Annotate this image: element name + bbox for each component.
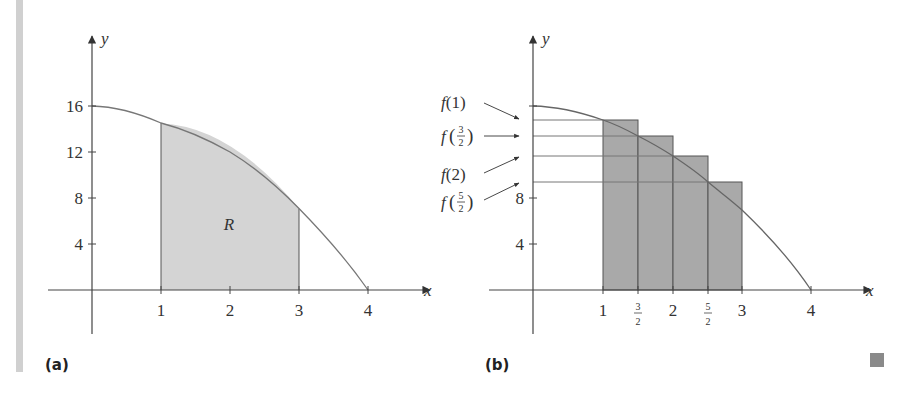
y-tick-4: 4 <box>75 235 84 254</box>
rect-3 <box>673 156 708 290</box>
label-f1: f(1) <box>441 93 519 119</box>
label-f2: f(2) <box>441 157 519 184</box>
svg-text:2: 2 <box>459 137 464 148</box>
riemann-rectangles <box>603 120 742 290</box>
svg-text:2: 2 <box>636 316 641 327</box>
svg-text:5: 5 <box>706 301 711 312</box>
side-bar <box>16 0 23 372</box>
svg-text:3: 3 <box>459 124 464 135</box>
panel-b: 1 3 2 2 5 2 3 4 4 8 x y f(1) f <box>441 29 874 374</box>
svg-text:f(1): f(1) <box>441 93 466 112</box>
panel-label-a: (a) <box>45 356 69 374</box>
figure: 1 2 3 4 4 8 12 16 x y R (a) <box>0 0 913 410</box>
x-tick-2-b: 2 <box>669 301 678 320</box>
svg-text:f: f <box>441 127 448 146</box>
svg-text:3: 3 <box>636 301 641 312</box>
svg-text:): ) <box>467 125 473 147</box>
x-tick-1: 1 <box>157 301 166 320</box>
x-tick-3: 3 <box>295 301 304 320</box>
x-tick-3-b: 3 <box>738 301 747 320</box>
y-tick-12: 12 <box>66 143 83 162</box>
y-tick-8: 8 <box>75 189 84 208</box>
svg-text:(: ( <box>449 125 455 147</box>
svg-text:f(2): f(2) <box>441 165 466 184</box>
y-axis-label-b: y <box>540 29 550 48</box>
y-tick-8-b: 8 <box>516 189 525 208</box>
y-tick-4-b: 4 <box>516 235 525 254</box>
svg-text:2: 2 <box>459 203 464 214</box>
x-tick-1-b: 1 <box>599 301 608 320</box>
panel-label-b: (b) <box>485 356 509 374</box>
rect-2 <box>638 136 673 290</box>
panel-a: 1 2 3 4 4 8 12 16 x y R (a) <box>45 29 432 374</box>
rect-4 <box>708 182 742 290</box>
label-f5-2: f ( 5 2 ) <box>441 183 519 214</box>
svg-text:2: 2 <box>706 316 711 327</box>
x-axis-label: x <box>423 281 432 300</box>
label-f3-2: f ( 3 2 ) <box>441 124 519 148</box>
y-axis-label: y <box>99 29 109 48</box>
y-tick-16: 16 <box>66 97 83 116</box>
x-tick-2: 2 <box>226 301 235 320</box>
end-marker-square <box>870 353 884 367</box>
x-tick-4-b: 4 <box>807 301 816 320</box>
svg-text:f: f <box>441 193 448 212</box>
x-tick-3-2-b: 3 2 <box>634 301 642 327</box>
svg-text:(: ( <box>449 191 455 213</box>
x-tick-4: 4 <box>364 301 373 320</box>
rect-1 <box>603 120 638 290</box>
svg-text:): ) <box>467 191 473 213</box>
x-tick-5-2-b: 5 2 <box>704 301 712 327</box>
x-axis-label-b: x <box>865 281 874 300</box>
region-label: R <box>223 215 235 234</box>
svg-text:5: 5 <box>459 190 464 201</box>
